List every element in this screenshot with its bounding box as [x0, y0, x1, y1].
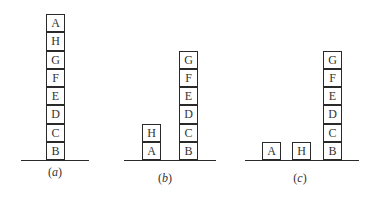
caption-c: (c)	[293, 171, 306, 186]
block-f: F	[323, 69, 342, 87]
block-e: E	[179, 87, 198, 105]
block-h: H	[292, 142, 311, 160]
ground-line-c	[245, 160, 359, 162]
block-b: B	[323, 142, 342, 160]
block-d: D	[323, 105, 342, 123]
block-g: G	[179, 51, 198, 69]
block-h: H	[46, 32, 65, 50]
ground-line-a	[21, 160, 89, 162]
block-a: A	[142, 142, 161, 160]
block-f: F	[179, 69, 198, 87]
caption-a: (a)	[48, 165, 62, 180]
block-d: D	[46, 105, 65, 123]
block-d: D	[179, 105, 198, 123]
block-c: C	[179, 124, 198, 142]
block-c: C	[46, 124, 65, 142]
block-c: C	[323, 124, 342, 142]
caption-b: (b)	[158, 171, 172, 186]
block-e: E	[46, 87, 65, 105]
block-f: F	[46, 69, 65, 87]
block-h: H	[142, 124, 161, 142]
block-g: G	[46, 51, 65, 69]
block-b: B	[179, 142, 198, 160]
block-g: G	[323, 51, 342, 69]
block-a: A	[46, 14, 65, 32]
block-a: A	[262, 142, 281, 160]
ground-line-b	[124, 160, 216, 162]
block-b: B	[46, 142, 65, 160]
block-e: E	[323, 87, 342, 105]
